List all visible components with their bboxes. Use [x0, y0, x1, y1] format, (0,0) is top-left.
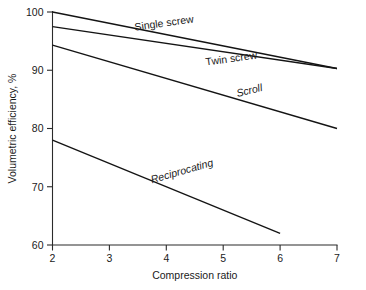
x-tick-label: 4: [163, 252, 169, 264]
x-axis-title: Compression ratio: [152, 269, 237, 281]
y-tick-label: 90: [32, 64, 44, 76]
chart-figure: 60708090100234567 Single screwTwin screw…: [0, 0, 366, 290]
series-line-twin-screw: [53, 27, 338, 69]
series-label-single-screw: Single screw: [134, 12, 195, 32]
x-tick-label: 7: [334, 252, 340, 264]
y-tick-label: 60: [32, 239, 44, 251]
y-tick-label: 70: [32, 181, 44, 193]
x-tick-label: 5: [220, 252, 226, 264]
x-tick-label: 6: [277, 252, 283, 264]
chart-series-lines: [53, 12, 338, 233]
chart-axes: [53, 11, 338, 245]
series-line-scroll: [53, 45, 338, 128]
y-axis-title: Volumetric efficiency, %: [6, 74, 18, 184]
series-line-reciprocating: [53, 140, 281, 233]
series-label-reciprocating: Reciprocating: [149, 156, 214, 185]
chart-ticks: 60708090100234567: [26, 6, 340, 264]
series-label-twin-screw: Twin screw: [205, 48, 259, 67]
x-tick-label: 2: [50, 252, 56, 264]
chart-series-labels: Single screwTwin screwScrollReciprocatin…: [134, 12, 264, 185]
x-tick-label: 3: [106, 252, 112, 264]
y-tick-label: 80: [32, 122, 44, 134]
series-line-single-screw: [53, 12, 338, 69]
y-tick-label: 100: [26, 6, 44, 18]
volumetric-efficiency-chart: 60708090100234567 Single screwTwin screw…: [0, 0, 366, 290]
series-label-scroll: Scroll: [235, 81, 264, 99]
